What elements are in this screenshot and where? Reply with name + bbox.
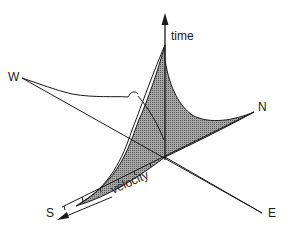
south-label: S [46,206,54,220]
velocity-time-diagram: time velocity W N S E [0,0,295,232]
time-label: time [171,29,194,43]
time-arrow-icon [162,13,169,25]
velocity-arrow-icon [57,212,69,220]
east-label: E [268,206,276,220]
west-label: W [8,70,20,84]
north-label: N [258,100,267,114]
east-converging-line [165,157,262,213]
